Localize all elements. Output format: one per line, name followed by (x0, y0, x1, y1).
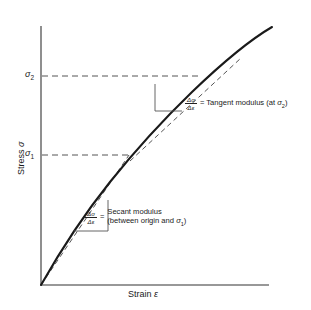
secant-modulus-annotation: Δσ Δε = Secant modulus (between origin a… (85, 208, 186, 227)
secant-label-line2-pre: (between origin and (107, 216, 176, 225)
sigma-1-subscript: 1 (30, 153, 34, 160)
y-tick-sigma-1: σ1 (25, 148, 34, 160)
tangent-label-tail: ) (285, 98, 288, 107)
x-axis-label: Strain ε (128, 289, 158, 299)
secant-fraction-numerator: Δσ (85, 210, 97, 217)
stress-strain-curve (41, 27, 272, 285)
tangent-text-block: = Tangent modulus (at σ2) (200, 99, 288, 109)
secant-fraction: Δσ Δε (85, 210, 97, 225)
y-tick-sigma-2: σ2 (25, 69, 34, 81)
tangent-equals-sign: = (200, 98, 204, 107)
tangent-fraction-numerator: Δσ (185, 96, 197, 103)
secant-text-block: Secant modulus (between origin and σ1) (107, 208, 186, 227)
secant-label-line2-post: ) (184, 216, 187, 225)
x-axis-symbol: ε (154, 289, 158, 299)
sigma-2-subscript: 2 (30, 74, 34, 81)
tangent-modulus-annotation: Δσ Δε = Tangent modulus (at σ2) (185, 96, 287, 111)
stress-strain-figure: σ2 σ1 Stress σ Strain ε Δσ Δε = Tangent … (0, 0, 311, 310)
tangent-label-text: Tangent modulus (at (206, 98, 277, 107)
tangent-fraction: Δσ Δε (185, 96, 197, 111)
y-axis-label: Stress σ (16, 142, 26, 175)
tangent-fraction-denominator: Δε (185, 103, 197, 111)
plot-canvas (0, 0, 311, 310)
y-axis-symbol: σ (16, 142, 26, 147)
secant-equals-sign: = (100, 213, 104, 222)
secant-fraction-denominator: Δε (85, 217, 97, 225)
y-axis-label-text: Stress (16, 149, 26, 175)
secant-label-line2: (between origin and σ1) (107, 217, 186, 227)
x-axis-label-text: Strain (128, 289, 152, 299)
